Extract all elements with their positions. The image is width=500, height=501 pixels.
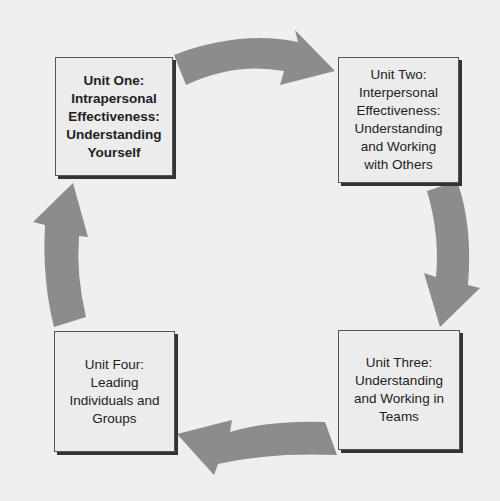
unit-four-box: Unit Four: Leading Individuals and Group… [54,331,175,452]
arrow-right-icon [174,30,335,85]
unit-one-label: Unit One: Intrapersonal Effectiveness: U… [66,72,161,162]
unit-three-box: Unit Three: Understanding and Working in… [338,330,460,450]
unit-two-box: Unit Two: Interpersonal Effectiveness: U… [338,57,459,183]
unit-two-label: Unit Two: Interpersonal Effectiveness: U… [355,66,443,174]
unit-three-label: Unit Three: Understanding and Working in… [354,354,444,426]
unit-one-box: Unit One: Intrapersonal Effectiveness: U… [55,57,173,176]
arrow-down-icon [424,181,480,327]
unit-four-label: Unit Four: Leading Individuals and Group… [69,356,159,428]
arrow-up-icon [33,183,88,327]
arrow-left-icon [177,420,337,475]
